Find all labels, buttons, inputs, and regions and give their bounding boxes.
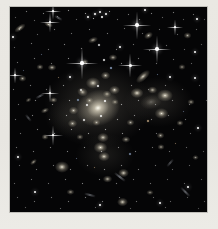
- faint-star-dot: [156, 63, 157, 64]
- faint-star-dot: [103, 59, 105, 61]
- faint-star-dot: [189, 165, 190, 166]
- galaxy: [67, 105, 80, 116]
- faint-star-dot: [46, 89, 47, 90]
- faint-star-dot: [167, 179, 168, 180]
- star: [99, 11, 102, 14]
- galaxy: [146, 85, 159, 95]
- galaxy: [91, 140, 110, 155]
- star-diffraction-spike: [50, 85, 51, 103]
- galaxy: [40, 133, 50, 141]
- galaxy: [134, 90, 167, 115]
- faint-star-dot: [49, 119, 50, 120]
- faint-star-dot: [151, 119, 152, 120]
- star-diffraction-spike: [53, 7, 54, 20]
- faint-star-dot: [104, 100, 106, 102]
- faint-star-dot: [177, 34, 178, 35]
- faint-star-dot: [151, 13, 152, 14]
- galaxy-cluster-photo: [10, 7, 207, 212]
- faint-star-dot: [191, 63, 192, 64]
- galaxy: [101, 174, 114, 184]
- faint-star-dot: [121, 104, 122, 105]
- faint-star-dot: [175, 143, 176, 144]
- faint-star-dot: [51, 197, 52, 198]
- galaxy: [83, 75, 103, 91]
- faint-star-dot: [18, 104, 19, 105]
- faint-star-dot: [54, 133, 55, 134]
- star-diffraction-spike: [53, 126, 54, 146]
- star: [52, 10, 54, 12]
- faint-star-dot: [122, 133, 123, 134]
- faint-star-dot: [81, 48, 82, 49]
- faint-star-dot: [159, 29, 160, 30]
- galaxy: [75, 133, 85, 141]
- faint-star-dot: [116, 49, 117, 50]
- faint-star-dot: [57, 16, 58, 17]
- faint-star-dot: [86, 104, 88, 106]
- faint-star-dot: [183, 19, 184, 20]
- star-diffraction-spike: [175, 20, 176, 36]
- galaxy: [95, 131, 111, 144]
- galaxy: [154, 87, 176, 104]
- faint-star-dot: [14, 183, 15, 184]
- faint-star-dot: [182, 89, 183, 90]
- faint-star-dot: [15, 17, 16, 18]
- faint-star-dot: [88, 133, 89, 134]
- faint-star-dot: [121, 165, 122, 166]
- galaxy: [46, 63, 58, 72]
- faint-star-dot: [51, 63, 52, 64]
- faint-star-dot: [128, 14, 129, 15]
- star: [174, 26, 177, 29]
- faint-star-dot: [82, 183, 83, 184]
- faint-star-dot: [136, 201, 137, 202]
- galaxy: [191, 154, 200, 161]
- star: [34, 191, 37, 194]
- faint-star-dot: [85, 13, 86, 14]
- star-diffraction-spike: [82, 48, 83, 80]
- intracluster-glow: [23, 46, 173, 164]
- galaxy: [115, 196, 130, 208]
- galaxy: [41, 18, 56, 30]
- faint-star-dot: [124, 28, 125, 29]
- star-diffraction-spike: [143, 49, 171, 50]
- faint-star-dot: [32, 115, 33, 116]
- faint-star-dot: [53, 165, 54, 166]
- faint-star-dot: [25, 207, 26, 208]
- faint-star-dot: [41, 54, 42, 55]
- star: [17, 156, 19, 158]
- faint-star-dot: [54, 29, 55, 30]
- galaxy: [140, 28, 156, 42]
- intracluster-glow: [111, 67, 206, 137]
- faint-star-dot: [196, 29, 197, 30]
- galaxy: [175, 119, 185, 127]
- faint-star-dot: [184, 183, 185, 184]
- faint-star-dot: [201, 44, 202, 45]
- faint-star-dot: [198, 208, 199, 209]
- faint-star-dot: [119, 197, 120, 198]
- faint-star-dot: [138, 100, 139, 101]
- faint-star-dot: [80, 89, 82, 91]
- faint-star-dot: [172, 169, 173, 170]
- faint-star-dot: [37, 34, 38, 35]
- faint-star-dot: [17, 62, 18, 63]
- star-diffraction-spike: [10, 75, 23, 76]
- galaxy: [130, 64, 155, 88]
- star: [129, 64, 132, 67]
- faint-star-dot: [87, 165, 88, 166]
- faint-star-dot: [131, 85, 132, 86]
- galaxy: [96, 150, 112, 163]
- galaxy: [128, 86, 146, 100]
- star: [80, 61, 83, 64]
- galaxy: [101, 89, 113, 99]
- faint-star-dot: [135, 151, 136, 152]
- faint-star-dot: [23, 70, 24, 71]
- faint-star-dot: [118, 147, 119, 148]
- faint-star-dot: [43, 13, 44, 14]
- galaxy: [52, 159, 72, 175]
- faint-star-dot: [201, 179, 202, 180]
- lensed-arc-streak: [84, 192, 96, 197]
- faint-star-dot: [107, 33, 108, 34]
- faint-star-dot: [105, 129, 106, 130]
- faint-star-dot: [30, 85, 31, 86]
- faint-star-dot: [85, 197, 86, 198]
- galaxy: [99, 70, 112, 81]
